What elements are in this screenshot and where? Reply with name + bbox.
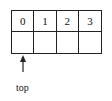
array-grid: 0 1 2 3 xyxy=(11,10,102,54)
index-cell-2: 2 xyxy=(57,11,79,32)
arrow-up-icon xyxy=(17,55,29,72)
value-cell-1 xyxy=(34,32,56,53)
value-cell-2 xyxy=(57,32,79,53)
index-cell-0: 0 xyxy=(12,11,34,32)
index-cell-3: 3 xyxy=(79,11,101,32)
value-cell-0 xyxy=(12,32,34,53)
value-cell-3 xyxy=(79,32,101,53)
top-pointer-label: top xyxy=(16,83,29,93)
index-cell-1: 1 xyxy=(34,11,56,32)
